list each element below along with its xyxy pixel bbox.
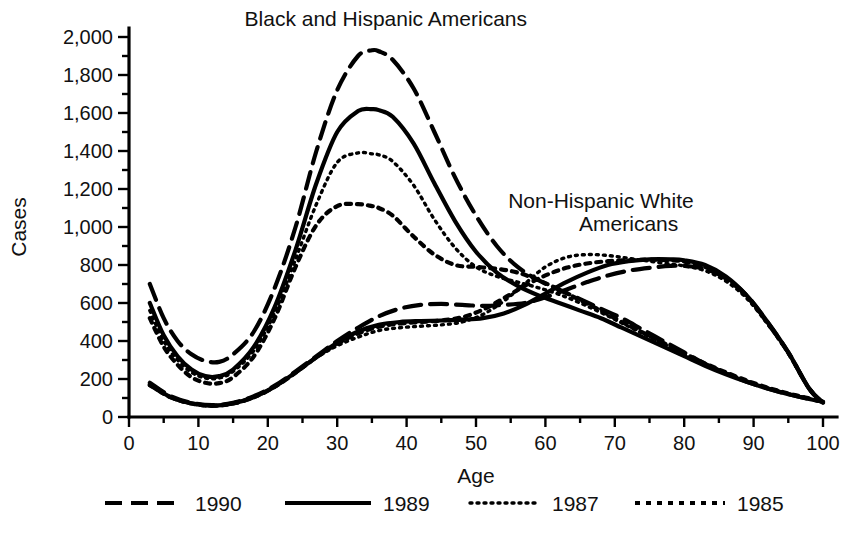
y-axis-tick-label: 800 <box>80 254 113 276</box>
y-axis-tick-label: 1,000 <box>63 216 113 238</box>
chart-figure: 02004006008001,0001,2001,4001,6001,8002,… <box>0 0 861 537</box>
y-axis-tick-label: 1,200 <box>63 178 113 200</box>
non-hispanic-white-group-label-line2: Americans <box>579 212 678 235</box>
y-axis-tick-label: 0 <box>102 406 113 428</box>
y-axis-tick-label: 2,000 <box>63 26 113 48</box>
y-axis-tick-label: 1,400 <box>63 140 113 162</box>
x-axis-tick-label: 80 <box>673 432 695 454</box>
legend-label-1990: 1990 <box>195 492 242 515</box>
x-axis-tick-label: 40 <box>395 432 417 454</box>
legend-label-1985: 1985 <box>737 492 784 515</box>
x-axis-tick-label: 60 <box>534 432 556 454</box>
x-axis-tick-label: 50 <box>465 432 487 454</box>
y-axis-tick-label: 200 <box>80 368 113 390</box>
y-axis-tick-label: 1,600 <box>63 102 113 124</box>
non-hispanic-white-group-label-line1: Non-Hispanic White <box>508 189 694 212</box>
x-axis-tick-label: 30 <box>326 432 348 454</box>
y-axis-tick-label: 1,800 <box>63 64 113 86</box>
x-axis-tick-label: 70 <box>604 432 626 454</box>
x-axis-tick-label: 90 <box>742 432 764 454</box>
x-axis-title: Age <box>457 464 494 487</box>
y-axis-tick-label: 600 <box>80 292 113 314</box>
x-axis-tick-label: 10 <box>187 432 209 454</box>
x-axis-tick-label: 20 <box>257 432 279 454</box>
y-axis-tick-label: 400 <box>80 330 113 352</box>
legend-label-1987: 1987 <box>552 492 599 515</box>
x-axis-tick-label: 100 <box>806 432 839 454</box>
x-axis-tick-label: 0 <box>123 432 134 454</box>
y-axis-title: Cases <box>7 197 30 257</box>
legend-label-1989: 1989 <box>383 492 430 515</box>
black-hispanic-group-label: Black and Hispanic Americans <box>245 7 527 30</box>
